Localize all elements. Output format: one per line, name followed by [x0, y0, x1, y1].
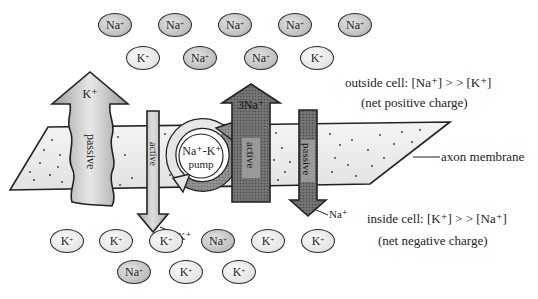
ion-charge: + [118, 236, 122, 244]
potassium-ion: K+ [149, 229, 183, 253]
ion-charge: + [69, 236, 73, 244]
na-active-ion-label: 3Na⁺ [238, 98, 264, 112]
ion-symbol: K [180, 265, 189, 280]
ion-charge: + [120, 20, 124, 28]
potassium-ion: K+ [99, 229, 133, 253]
ion-charge: + [223, 236, 227, 244]
ion-charge: + [300, 20, 304, 28]
ion-symbol: K [61, 234, 70, 249]
na-passive-ion-label: Na⁺ [329, 208, 348, 220]
sodium-ion: Na+ [98, 13, 132, 37]
ion-symbol: Na [226, 18, 240, 33]
pump-label-line2: pump [188, 158, 214, 170]
potassium-ion: K+ [300, 46, 334, 70]
diagram-canvas: K⁺ passive active 2K⁺ Na⁺-K⁺ pump [0, 0, 538, 299]
ion-charge: + [139, 267, 143, 275]
k-passive-mode-label: passive [84, 134, 98, 169]
sodium-ion: Na+ [158, 13, 192, 37]
ion-symbol: Na [252, 51, 266, 66]
potassium-ion: K+ [222, 260, 256, 284]
potassium-ion: K+ [126, 46, 160, 70]
ion-charge: + [319, 53, 323, 61]
sodium-ion: Na+ [117, 260, 151, 284]
ion-symbol: Na [125, 265, 139, 280]
ion-symbol: Na [166, 18, 180, 33]
ion-charge: + [145, 53, 149, 61]
ion-symbol: K [110, 234, 119, 249]
ion-symbol: K [160, 234, 169, 249]
k-passive-ion-label: K⁺ [83, 87, 98, 101]
ion-symbol: Na [346, 18, 360, 33]
potassium-ion: K+ [50, 229, 84, 253]
ion-charge: + [180, 20, 184, 28]
outside-label-line2: (net positive charge) [361, 95, 468, 111]
ion-symbol: Na [106, 18, 120, 33]
ion-charge: + [205, 53, 209, 61]
ion-charge: + [320, 236, 324, 244]
ion-charge: + [266, 53, 270, 61]
ion-symbol: K [262, 234, 271, 249]
ion-charge: + [188, 267, 192, 275]
inside-label-line2: (net negative charge) [378, 233, 487, 249]
potassium-ion: K+ [251, 229, 285, 253]
sodium-ion: Na+ [201, 229, 235, 253]
sodium-ion: Na+ [218, 13, 252, 37]
ion-symbol: K [233, 265, 242, 280]
potassium-ion: K+ [301, 229, 335, 253]
sodium-ion: Na+ [338, 13, 372, 37]
sodium-ion: Na+ [278, 13, 312, 37]
ion-charge: + [360, 20, 364, 28]
potassium-ion: K+ [169, 260, 203, 284]
sodium-ion: Na+ [244, 46, 278, 70]
ion-symbol: Na [191, 51, 205, 66]
na-active-mode-label: active [245, 142, 257, 168]
sodium-ion: Na+ [183, 46, 217, 70]
membrane-label: axon membrane [441, 149, 524, 165]
ion-symbol: K [311, 51, 320, 66]
ion-charge: + [270, 236, 274, 244]
pump-label-line1: Na⁺-K⁺ [182, 144, 221, 158]
na-k-pump: Na⁺-K⁺ pump [168, 122, 234, 192]
ion-symbol: K [312, 234, 321, 249]
k-active-mode-label: active [148, 142, 159, 166]
outside-label-line1: outside cell: [Na⁺] > > [K⁺] [345, 75, 491, 91]
ion-charge: + [241, 267, 245, 275]
ion-symbol: Na [286, 18, 300, 33]
ion-symbol: K [137, 51, 146, 66]
inside-label-line1: inside cell: [K⁺] > > [Na⁺] [367, 211, 507, 227]
ion-symbol: Na [209, 234, 223, 249]
ion-charge: + [168, 236, 172, 244]
na-passive-mode-label: passive [301, 143, 313, 176]
ion-charge: + [240, 20, 244, 28]
